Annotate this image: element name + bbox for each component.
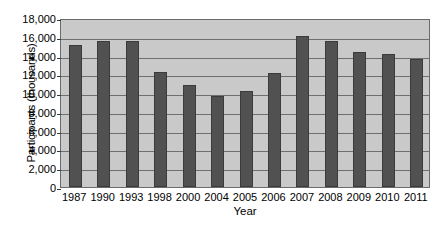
x-tick-label: 1990 [90,190,114,204]
x-tick-label: 2006 [261,190,285,204]
x-tick-label: 1993 [119,190,143,204]
y-tick-label: 18,000 [12,14,56,25]
bar [325,41,338,187]
x-tick-label: 1987 [62,190,86,204]
bar [97,41,110,187]
y-tick-label: 8,000 [12,107,56,118]
x-tick-label: 2008 [318,190,342,204]
x-tick-label: 2009 [347,190,371,204]
bar [382,54,395,187]
x-tick-label: 2005 [233,190,257,204]
x-tick-label: 2007 [290,190,314,204]
y-tick-label: 2,000 [12,164,56,175]
y-tick-label: 0 [12,183,56,194]
y-tick-label: 10,000 [12,89,56,100]
bar [183,85,196,187]
y-tick-label: 4,000 [12,145,56,156]
x-axis-title: Year [60,205,430,217]
x-tick-label: 2011 [404,190,428,204]
bars-layer [61,20,429,187]
y-tick-label: 14,000 [12,51,56,62]
bar [69,45,82,187]
bar-chart: Participants (thousands) 02,0004,0006,00… [0,0,446,225]
bar [126,41,139,187]
bar [296,36,309,187]
y-tick-label: 12,000 [12,70,56,81]
x-tick-label: 2000 [176,190,200,204]
bar [410,59,423,187]
bar [154,72,167,187]
bar [211,96,224,187]
x-tick-label: 1998 [147,190,171,204]
plot-area [60,19,430,188]
x-tick-label: 2004 [204,190,228,204]
y-axis-tick-labels: 02,0004,0006,0008,00010,00012,00014,0001… [12,19,56,188]
x-tick-label: 2010 [375,190,399,204]
bar [268,73,281,187]
bar [353,52,366,187]
y-tick-label: 6,000 [12,126,56,137]
x-axis-tick-labels: 1987199019931998200020042005200620072008… [60,190,430,206]
y-tick-label: 16,000 [12,32,56,43]
bar [240,91,253,187]
